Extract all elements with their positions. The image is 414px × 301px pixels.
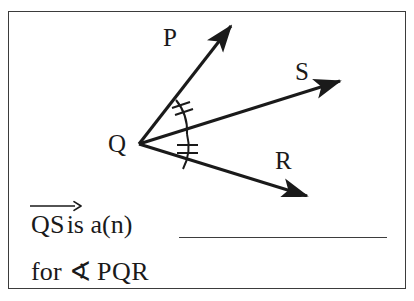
answer-blank-field[interactable] <box>179 237 387 238</box>
point-label-q: Q <box>108 131 126 156</box>
question-line-2: for ∢ PQR <box>31 258 149 285</box>
for-word: for <box>31 259 62 285</box>
ray-arrow-overline-icon <box>30 199 82 210</box>
question-predicate: is a(n) <box>67 212 133 238</box>
ray-qs-label: QS <box>31 210 65 239</box>
problem-card: P S R Q QS is a(n) for ∢ PQR <box>8 11 406 289</box>
angle-symbol-icon: ∢ <box>69 259 92 286</box>
question-line-1: QS is a(n) <box>31 210 132 238</box>
angle-arc-sqr <box>183 134 189 169</box>
point-label-r: R <box>275 148 292 173</box>
ray-qs <box>139 81 340 144</box>
ray-qp <box>139 26 231 144</box>
point-label-s: S <box>295 59 309 84</box>
angle-diagram-svg <box>9 12 406 197</box>
angle-name-pqr: PQR <box>97 259 149 285</box>
ray-qs-term: QS <box>31 210 65 238</box>
geometry-figure: P S R Q <box>9 12 406 197</box>
point-label-p: P <box>163 25 177 50</box>
